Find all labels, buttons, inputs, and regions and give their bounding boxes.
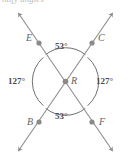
geometry-figure: ntify angles E C B F xyxy=(0,0,131,163)
vertex-label-R: R xyxy=(71,76,77,86)
point-dot-F xyxy=(89,119,94,124)
angle-label-right: 127° xyxy=(96,77,113,86)
point-label-C: C xyxy=(98,33,105,43)
point-dot-B xyxy=(36,119,41,124)
point-label-B: B xyxy=(27,117,33,127)
angle-arc-left xyxy=(32,57,43,105)
point-label-E: E xyxy=(26,33,32,43)
angle-label-top: 53° xyxy=(55,42,68,51)
point-dot-E xyxy=(36,40,41,45)
point-dot-R xyxy=(63,79,69,85)
angle-label-bottom: 53° xyxy=(55,112,68,121)
point-label-F: F xyxy=(99,117,105,127)
angle-label-left: 127° xyxy=(8,77,25,86)
point-dot-C xyxy=(89,40,94,45)
